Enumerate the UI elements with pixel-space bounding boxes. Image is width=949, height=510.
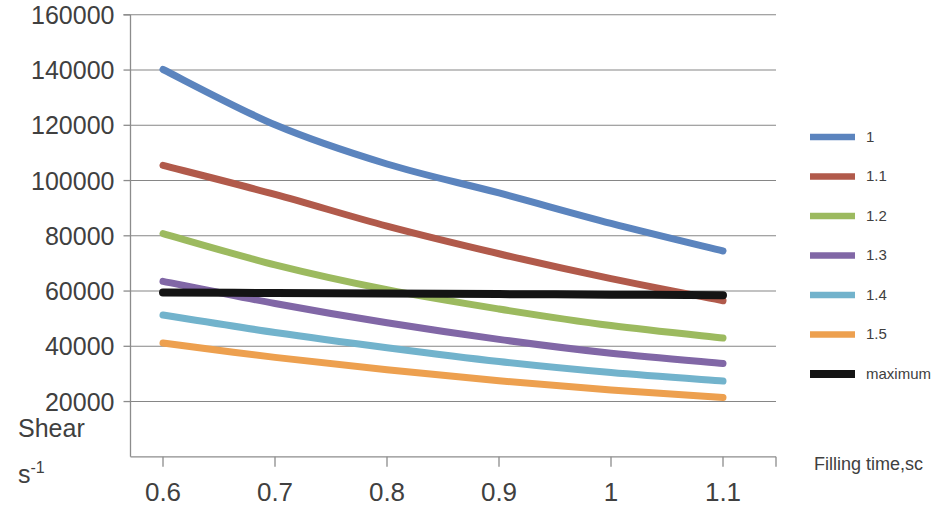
series-line-maximum xyxy=(163,292,723,295)
x-axis-tick-label: 0.9 xyxy=(481,477,517,507)
y-axis-tick-label: 100000 xyxy=(31,167,114,195)
x-axis-tick-labels: 0.60.70.80.911.1 xyxy=(145,477,741,507)
legend-label-1-5: 1.5 xyxy=(866,325,887,342)
y-axis-tick-label: 120000 xyxy=(31,111,114,139)
y-axis-tick-label: 160000 xyxy=(31,1,114,29)
x-axis-tick-label: 1.1 xyxy=(705,477,741,507)
y-axis-tick-label: 40000 xyxy=(45,332,115,360)
x-axis-title-text: Filling time,sc xyxy=(814,454,923,474)
series-line-1-5 xyxy=(163,343,723,397)
legend-label-maximum: maximum xyxy=(866,365,931,382)
y-axis-tick-label: 80000 xyxy=(45,222,115,250)
x-axis-tick-label: 0.7 xyxy=(257,477,293,507)
series-line-1-4 xyxy=(163,315,723,381)
gridlines xyxy=(131,15,777,402)
legend-label-1-3: 1.3 xyxy=(866,246,887,263)
legend-label-1-4: 1.4 xyxy=(866,286,887,303)
x-axis-tick-label: 1 xyxy=(604,477,618,507)
chart-container: 2000040000600008000010000012000014000016… xyxy=(0,0,949,510)
y-axis-tick-labels: 2000040000600008000010000012000014000016… xyxy=(31,1,114,416)
y-axis-title-line1: Shear xyxy=(18,414,85,442)
x-axis-tick-label: 0.6 xyxy=(145,477,181,507)
chart-legend: 11.11.21.31.41.5maximum xyxy=(810,128,931,382)
x-axis-title: Filling time,sc xyxy=(814,454,923,474)
y-axis-title: Shears-1 xyxy=(18,414,85,488)
legend-label-1-1: 1.1 xyxy=(866,167,887,184)
line-chart: 2000040000600008000010000012000014000016… xyxy=(0,0,949,510)
legend-label-1: 1 xyxy=(866,128,874,145)
series-line-1 xyxy=(163,70,723,251)
x-axis-tick-label: 0.8 xyxy=(369,477,405,507)
y-axis-tick-label: 60000 xyxy=(45,277,115,305)
y-axis-tick-label: 20000 xyxy=(45,388,115,416)
y-axis-title-line2: s-1 xyxy=(18,459,45,488)
y-axis-tick-label: 140000 xyxy=(31,56,114,84)
series-lines xyxy=(163,70,723,398)
legend-label-1-2: 1.2 xyxy=(866,207,887,224)
